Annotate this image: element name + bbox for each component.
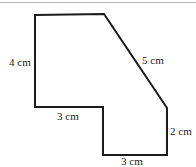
dimension-label-bottom-3cm: 3 cm: [121, 156, 143, 167]
dimension-label-diagonal-5cm: 5 cm: [142, 55, 164, 66]
composite-polygon-shape: [35, 14, 167, 155]
polygon-canvas: [0, 0, 196, 167]
dimension-label-right-2cm: 2 cm: [170, 126, 192, 137]
dimension-label-left-4cm: 4 cm: [9, 57, 31, 68]
dimension-label-step-3cm: 3 cm: [57, 111, 79, 122]
geometry-figure: 4 cm 5 cm 3 cm 2 cm 3 cm: [0, 0, 196, 167]
